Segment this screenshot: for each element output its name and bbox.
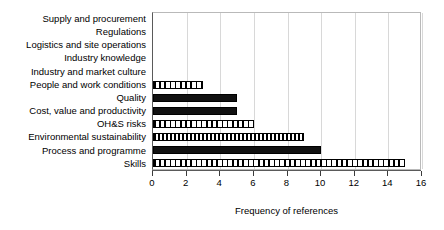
- bar-row: [153, 156, 420, 169]
- bar-row: [153, 91, 420, 104]
- category-label: Quality: [0, 91, 150, 104]
- x-axis-tick-labels: 0246810121416: [112, 177, 444, 191]
- x-tick-label: 8: [284, 177, 289, 189]
- bar: [153, 120, 254, 128]
- bar-row: [153, 52, 420, 65]
- x-tick: [219, 171, 220, 176]
- bar-series: [153, 13, 420, 169]
- category-label: Industry and market culture: [0, 65, 150, 78]
- x-tick-label: 2: [183, 177, 188, 189]
- category-label: People and work conditions: [0, 78, 150, 91]
- gridline: [422, 13, 423, 169]
- bar-row: [153, 65, 420, 78]
- bar: [153, 107, 237, 115]
- bar: [153, 146, 321, 154]
- x-tick-label: 10: [315, 177, 326, 189]
- x-tick: [320, 171, 321, 176]
- bar-chart: Supply and procurementRegulationsLogisti…: [0, 0, 444, 230]
- x-tick-label: 12: [348, 177, 359, 189]
- category-label: Cost, value and productivity: [0, 104, 150, 117]
- category-axis-labels: Supply and procurementRegulationsLogisti…: [0, 12, 150, 170]
- x-tick: [421, 171, 422, 176]
- bar: [153, 159, 405, 167]
- bar-row: [153, 117, 420, 130]
- bar-row: [153, 78, 420, 91]
- x-tick: [287, 171, 288, 176]
- x-tick: [354, 171, 355, 176]
- plot-area: [152, 12, 421, 170]
- x-tick: [186, 171, 187, 176]
- x-tick: [253, 171, 254, 176]
- x-axis-line: [152, 170, 421, 177]
- category-label: Skills: [0, 157, 150, 170]
- bar-row: [153, 130, 420, 143]
- bar-row: [153, 39, 420, 52]
- x-tick-label: 6: [250, 177, 255, 189]
- bar: [153, 94, 237, 102]
- x-axis-title: Frequency of references: [152, 205, 421, 216]
- bar: [153, 133, 304, 141]
- bar-row: [153, 26, 420, 39]
- category-label: Environmental sustainability: [0, 131, 150, 144]
- bar-row: [153, 143, 420, 156]
- x-tick: [387, 171, 388, 176]
- x-tick-label: 16: [416, 177, 427, 189]
- category-label: Regulations: [0, 25, 150, 38]
- category-label: Supply and procurement: [0, 12, 150, 25]
- category-label: OH&S risks: [0, 117, 150, 130]
- bar: [153, 81, 203, 89]
- x-tick-label: 4: [217, 177, 222, 189]
- category-label: Process and programme: [0, 144, 150, 157]
- category-label: Logistics and site operations: [0, 38, 150, 51]
- bar-row: [153, 13, 420, 26]
- x-tick-label: 14: [382, 177, 393, 189]
- category-label: Industry knowledge: [0, 52, 150, 65]
- bar-row: [153, 104, 420, 117]
- x-tick-label: 0: [149, 177, 154, 189]
- x-tick: [152, 171, 153, 176]
